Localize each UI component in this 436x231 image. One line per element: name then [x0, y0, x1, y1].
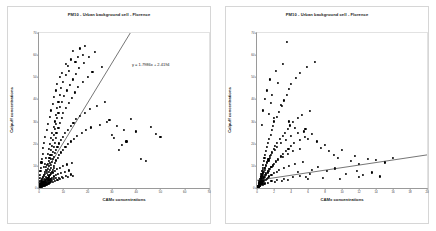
y-tick-label: 40: [33, 98, 36, 101]
y-tick-label: 70: [33, 32, 36, 35]
y-tick-mark: [37, 55, 39, 56]
y-tick-mark: [255, 33, 257, 34]
y-tick-mark: [255, 143, 257, 144]
y-tick-mark: [255, 55, 257, 56]
y-tick-label: 30: [33, 120, 36, 123]
x-tick-label: 40: [135, 191, 138, 194]
panel-left-plot-box: 010203040506070010203040506070: [38, 32, 210, 189]
panel-left-regression-line: [39, 33, 209, 188]
y-tick-label: 20: [33, 142, 36, 145]
y-tick-label: 50: [33, 76, 36, 79]
x-tick-label: 10: [340, 191, 343, 194]
x-tick-label: 8: [324, 191, 326, 194]
panel-right-plot-box: 01020304050607002468101214161820: [256, 32, 428, 189]
x-tick-label: 6: [307, 191, 309, 194]
x-tick-label: 70: [207, 191, 210, 194]
x-tick-label: 0: [38, 191, 40, 194]
figure-container: PM10 - Urban background cell - Florence …: [0, 0, 436, 231]
x-tick-label: 30: [110, 191, 113, 194]
y-tick-mark: [37, 143, 39, 144]
y-tick-label: 70: [251, 32, 254, 35]
y-tick-label: 0: [35, 187, 37, 190]
y-tick-mark: [255, 77, 257, 78]
y-tick-mark: [255, 121, 257, 122]
y-tick-mark: [37, 33, 39, 34]
y-tick-label: 60: [251, 54, 254, 57]
panel-left-yaxis-title: Calpuff concentrations: [10, 87, 14, 133]
panel-left-equation-label: y = 1.7986x + 2.4194: [132, 63, 170, 67]
y-tick-mark: [37, 121, 39, 122]
x-tick-label: 20: [425, 191, 428, 194]
panel-right-title: PM10 - Urban background cell - Florence: [218, 13, 436, 17]
y-tick-label: 20: [251, 142, 254, 145]
x-tick-label: 4: [290, 191, 292, 194]
y-tick-label: 60: [33, 54, 36, 57]
y-tick-label: 10: [33, 164, 36, 167]
y-tick-mark: [37, 99, 39, 100]
x-tick-label: 18: [408, 191, 411, 194]
x-tick-label: 10: [62, 191, 65, 194]
panel-right: PM10 - Urban background cell - Florence …: [218, 0, 436, 231]
x-tick-label: 2: [273, 191, 275, 194]
panel-left: PM10 - Urban background cell - Florence …: [0, 0, 218, 231]
y-tick-mark: [37, 166, 39, 167]
y-tick-label: 0: [253, 187, 255, 190]
x-tick-label: 16: [391, 191, 394, 194]
y-tick-label: 30: [251, 120, 254, 123]
panel-right-xaxis-title: CAMx concentrations: [256, 198, 428, 202]
panel-right-regression-line: [257, 33, 427, 188]
x-tick-label: 60: [183, 191, 186, 194]
x-tick-label: 12: [357, 191, 360, 194]
panel-left-xaxis-title: CAMx concentrations: [38, 198, 210, 202]
y-tick-label: 40: [251, 98, 254, 101]
x-tick-label: 14: [374, 191, 377, 194]
x-tick-label: 20: [86, 191, 89, 194]
x-tick-label: 50: [159, 191, 162, 194]
y-tick-label: 50: [251, 76, 254, 79]
panel-left-title: PM10 - Urban background cell - Florence: [0, 13, 218, 17]
panel-right-yaxis-title: Calpuff concentrations: [228, 87, 232, 133]
y-tick-label: 10: [251, 164, 254, 167]
y-tick-mark: [37, 77, 39, 78]
x-tick-label: 0: [256, 191, 258, 194]
y-tick-mark: [255, 99, 257, 100]
y-tick-mark: [255, 166, 257, 167]
